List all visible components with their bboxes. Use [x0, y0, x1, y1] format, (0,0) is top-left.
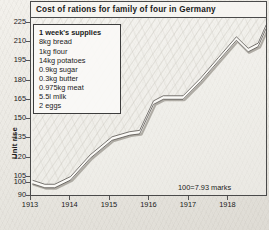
x-tick-label: 1915: [101, 201, 117, 208]
legend-item: 8kg bread: [39, 37, 116, 46]
x-tick-label: 1917: [180, 201, 196, 208]
y-tick-label: 210: [14, 37, 26, 44]
x-tick-label: 1914: [61, 201, 77, 208]
legend-item: 14kg potatoes: [39, 56, 116, 65]
legend-item: 2 eggs: [39, 101, 116, 110]
scale-note: 100=7.93 marks: [178, 183, 231, 192]
x-tick-mark: [148, 196, 149, 200]
legend-item: 5.5l milk: [39, 92, 116, 101]
y-axis: 22521019518016515013512010510090: [0, 18, 30, 196]
legend-item: 0.9kg sugar: [39, 65, 116, 74]
x-tick-label: 1918: [219, 201, 235, 208]
legend-item: 0.975kg meat: [39, 83, 116, 92]
y-tick-label: 150: [14, 114, 26, 121]
x-tick-label: 1916: [140, 201, 156, 208]
legend-box: 1 week's supplies 8kg bread1kg flour14kg…: [33, 24, 121, 114]
legend-item: 0.3kg butter: [39, 74, 116, 83]
legend-title: 1 week's supplies: [39, 28, 116, 37]
x-tick-mark: [188, 196, 189, 200]
x-axis: 191319141915191619171918: [30, 196, 267, 214]
y-tick-label: 165: [14, 95, 26, 102]
y-tick-label: 180: [14, 76, 26, 83]
y-tick-label: 90: [18, 191, 26, 198]
y-tick-label: 195: [14, 57, 26, 64]
chart-title: Cost of rations for family of four in Ge…: [31, 5, 216, 14]
x-tick-mark: [109, 196, 110, 200]
chart-title-bar: Cost of rations for family of four in Ge…: [30, 1, 267, 18]
x-tick-mark: [69, 196, 70, 200]
x-tick-mark: [227, 196, 228, 200]
x-tick-label: 1913: [22, 201, 38, 208]
legend-item: 1kg flour: [39, 47, 116, 56]
legend-item-list: 8kg bread1kg flour14kg potatoes0.9kg sug…: [39, 37, 116, 110]
chart-figure: Cost of rations for family of four in Ge…: [0, 0, 269, 230]
y-axis-label: Unit rise: [10, 127, 19, 159]
y-tick-label: 100: [14, 178, 26, 185]
x-tick-mark: [30, 196, 31, 200]
y-tick-label: 225: [14, 18, 26, 25]
